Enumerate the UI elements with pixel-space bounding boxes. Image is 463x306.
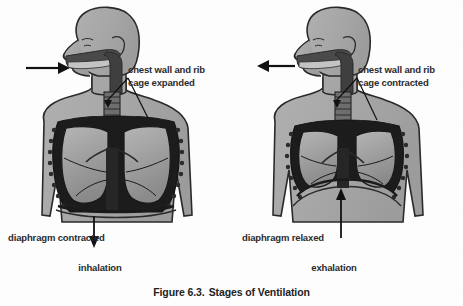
figure-caption: Figure 6.3.Stages of Ventilation	[0, 286, 463, 298]
mediastinum	[337, 148, 349, 188]
caption-title: Stages of Ventilation	[209, 286, 310, 298]
lung-left	[62, 127, 108, 204]
diaphragm-label-inhalation: diaphragm contracted	[8, 232, 168, 245]
stage-label-inhalation: inhalation	[20, 262, 180, 273]
lung-right	[124, 127, 170, 204]
airflow-arrow-out	[257, 60, 295, 72]
chest-wall-label-exhalation: chest wall and rib cage contracted	[358, 64, 463, 89]
figure-container: chest wall and rib cage expanded chest w…	[0, 0, 463, 306]
diaphragm-label-exhalation: diaphragm relaxed	[242, 232, 402, 245]
chest-wall-label-inhalation: chest wall and rib cage expanded	[128, 64, 232, 89]
caption-number: Figure 6.3.	[153, 286, 204, 298]
airflow-arrow-in	[26, 62, 70, 74]
mediastinum	[106, 148, 118, 210]
stage-label-exhalation: exhalation	[254, 262, 414, 273]
